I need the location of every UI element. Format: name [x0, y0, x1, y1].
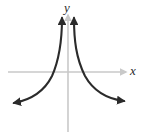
- x-axis-label: x: [130, 64, 136, 77]
- y-axis-label: y: [64, 1, 70, 14]
- curve-right-branch: [74, 18, 124, 101]
- curve-left-branch: [14, 18, 62, 103]
- graph-figure: y x: [0, 0, 141, 136]
- coordinate-plane: [0, 0, 141, 136]
